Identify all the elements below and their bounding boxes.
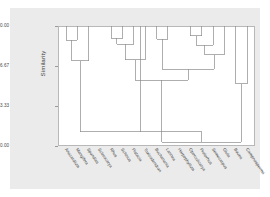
figure-background: Similarity 0.0033.3366.67100.00 Anacardi… (10, 8, 260, 189)
dendrogram-svg (58, 26, 255, 146)
y-axis-tick-label: 0.00 (0, 143, 9, 148)
x-axis-tick-label: Campnosperma (244, 147, 265, 175)
y-axis-title: Similarity (39, 24, 46, 104)
y-axis-tick-label: 100.00 (0, 23, 9, 28)
y-axis-tick-label: 66.67 (0, 63, 9, 68)
x-axis-tick-label: Bouea (233, 147, 244, 160)
x-axis-tick-label: Rhus (109, 147, 119, 158)
y-axis-tick-label: 33.33 (0, 103, 9, 108)
x-axis-tick-label: Gluta (222, 147, 232, 158)
dendrogram-tree (58, 26, 255, 146)
dendrogram-figure: Similarity 0.0033.3366.67100.00 Anacardi… (0, 0, 270, 197)
x-axis-labels: AnacardiumMangiferaSpondiasSclerocaryaRh… (58, 147, 255, 197)
